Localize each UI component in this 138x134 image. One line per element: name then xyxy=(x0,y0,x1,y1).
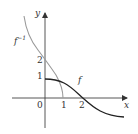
plot-canvas xyxy=(0,0,138,134)
inverse-function-diagram: y x 0 1 2 1 2 f f−1 xyxy=(0,0,138,134)
y-axis-label: y xyxy=(35,9,40,18)
f-curve-label: f xyxy=(78,76,81,85)
x-axis-label: x xyxy=(124,101,129,110)
y-tick-1: 1 xyxy=(37,72,43,81)
f-inverse-label-sup: −1 xyxy=(17,34,26,41)
x-tick-2: 2 xyxy=(79,101,85,110)
x-tick-1: 1 xyxy=(61,101,67,110)
f-inverse-curve xyxy=(24,16,63,98)
origin-label: 0 xyxy=(37,101,43,110)
y-tick-2: 2 xyxy=(37,56,43,65)
f-inverse-label: f−1 xyxy=(14,37,26,46)
